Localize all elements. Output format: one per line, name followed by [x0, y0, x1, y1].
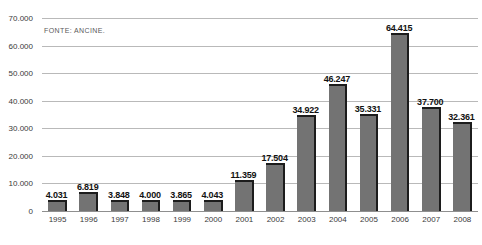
bar[interactable]: 6.819 — [79, 192, 98, 211]
bar[interactable]: 3.848 — [111, 200, 130, 211]
bar-value-label: 37.700 — [417, 97, 443, 107]
y-axis-tick-label: 0 — [0, 207, 33, 216]
bar[interactable]: 4.031 — [48, 200, 67, 211]
x-axis-labels: 1995199619971998199920002001200220032004… — [42, 215, 478, 224]
bar-slot: 32.361 — [447, 18, 478, 211]
x-axis-tick-label: 1997 — [104, 215, 135, 224]
x-axis-tick-label: 1995 — [42, 215, 73, 224]
bar-slot: 3.865 — [167, 18, 198, 211]
plot-area: 010.00020.00030.00040.00050.00060.00070.… — [42, 18, 478, 211]
bar-slot: 37.700 — [416, 18, 447, 211]
bar-value-label: 46.247 — [324, 74, 350, 84]
bar[interactable]: 46.247 — [329, 84, 348, 212]
bar-value-label: 32.361 — [448, 112, 474, 122]
bar[interactable]: 4.043 — [204, 200, 223, 211]
bar-value-label: 64.415 — [386, 23, 412, 33]
bar-value-label: 35.331 — [355, 104, 381, 114]
bar-value-label: 11.359 — [230, 170, 256, 180]
bar-slot: 17.504 — [260, 18, 291, 211]
x-axis-tick-label: 1999 — [167, 215, 198, 224]
bar[interactable]: 11.359 — [235, 180, 254, 211]
bar-value-label: 4.043 — [202, 190, 224, 200]
x-axis-tick-label: 2002 — [260, 215, 291, 224]
x-axis-tick-label: 2001 — [229, 215, 260, 224]
x-axis-tick-label: 1998 — [135, 215, 166, 224]
bar-value-label: 6.819 — [77, 182, 99, 192]
bar-chart: FONTE: ANCINE. 010.00020.00030.00040.000… — [0, 0, 482, 245]
bar-slot: 64.415 — [385, 18, 416, 211]
y-axis-tick-label: 10.000 — [0, 179, 33, 188]
bar-slot: 4.043 — [198, 18, 229, 211]
x-axis-tick-label: 2000 — [198, 215, 229, 224]
bar-slot: 11.359 — [229, 18, 260, 211]
x-axis-tick-label: 2007 — [416, 215, 447, 224]
y-axis-tick-label: 70.000 — [0, 14, 33, 23]
bar[interactable]: 35.331 — [360, 114, 379, 211]
bar-value-label: 4.031 — [46, 190, 68, 200]
y-axis-tick-label: 60.000 — [0, 41, 33, 50]
gridline — [42, 211, 478, 212]
bar-slot: 4.000 — [135, 18, 166, 211]
bar-value-label: 4.000 — [139, 190, 161, 200]
bar-series: 4.0316.8193.8484.0003.8654.04311.35917.5… — [42, 18, 478, 211]
x-axis-tick-label: 2003 — [291, 215, 322, 224]
bar[interactable]: 4.000 — [142, 200, 161, 211]
x-axis-tick-label: 2005 — [353, 215, 384, 224]
bar-slot: 35.331 — [353, 18, 384, 211]
bar-slot: 6.819 — [73, 18, 104, 211]
y-axis-tick-label: 20.000 — [0, 151, 33, 160]
bar[interactable]: 3.865 — [173, 200, 192, 211]
bar-value-label: 3.865 — [170, 190, 192, 200]
y-axis-tick-label: 30.000 — [0, 124, 33, 133]
bar[interactable]: 32.361 — [453, 122, 472, 211]
bar-slot: 34.922 — [291, 18, 322, 211]
bar-value-label: 3.848 — [108, 190, 130, 200]
bar-slot: 3.848 — [104, 18, 135, 211]
bar-slot: 4.031 — [42, 18, 73, 211]
bar[interactable]: 34.922 — [297, 115, 316, 211]
y-axis-tick-label: 50.000 — [0, 69, 33, 78]
bar-value-label: 34.922 — [293, 105, 319, 115]
bar[interactable]: 37.700 — [422, 107, 441, 211]
bar-slot: 46.247 — [322, 18, 353, 211]
bar-value-label: 17.504 — [261, 153, 287, 163]
y-axis-tick-label: 40.000 — [0, 96, 33, 105]
x-axis-tick-label: 2008 — [447, 215, 478, 224]
bar[interactable]: 17.504 — [266, 163, 285, 211]
x-axis-tick-label: 1996 — [73, 215, 104, 224]
bar[interactable]: 64.415 — [391, 33, 410, 211]
x-axis-tick-label: 2006 — [385, 215, 416, 224]
x-axis-tick-label: 2004 — [322, 215, 353, 224]
